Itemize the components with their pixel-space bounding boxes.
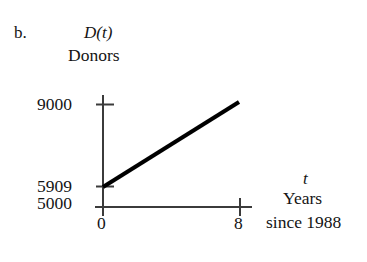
data-line-series-D [103,102,239,187]
plot-area [0,0,367,262]
figure-root: b. D(t) Donors t Years since 1988 9000 5… [0,0,367,262]
